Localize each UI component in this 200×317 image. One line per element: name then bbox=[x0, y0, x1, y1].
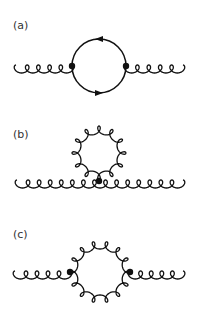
vertex-dot-c-2 bbox=[127, 269, 133, 275]
diagram-c-gluon-loop bbox=[13, 242, 185, 302]
gluon-loop-c bbox=[69, 242, 131, 302]
vertex-dot-b-1 bbox=[96, 178, 102, 184]
external-gluon-c-1 bbox=[13, 271, 72, 279]
vertex-dot-a-2 bbox=[123, 63, 129, 69]
feynman-diagrams bbox=[0, 0, 200, 317]
diagram-b-gluon-tadpole bbox=[15, 126, 185, 188]
quark-loop bbox=[72, 39, 126, 93]
diagram-a-quark-loop bbox=[14, 36, 185, 96]
arrow-left-icon bbox=[95, 36, 103, 42]
external-gluon-a-1 bbox=[14, 65, 74, 73]
gluon-loop-b bbox=[72, 126, 126, 180]
vertex-dot-a-1 bbox=[69, 63, 75, 69]
vertex-dot-c-1 bbox=[67, 269, 73, 275]
external-gluon-c-2 bbox=[128, 271, 185, 279]
external-gluon-a-2 bbox=[124, 65, 184, 73]
arrow-right-icon bbox=[95, 90, 103, 96]
